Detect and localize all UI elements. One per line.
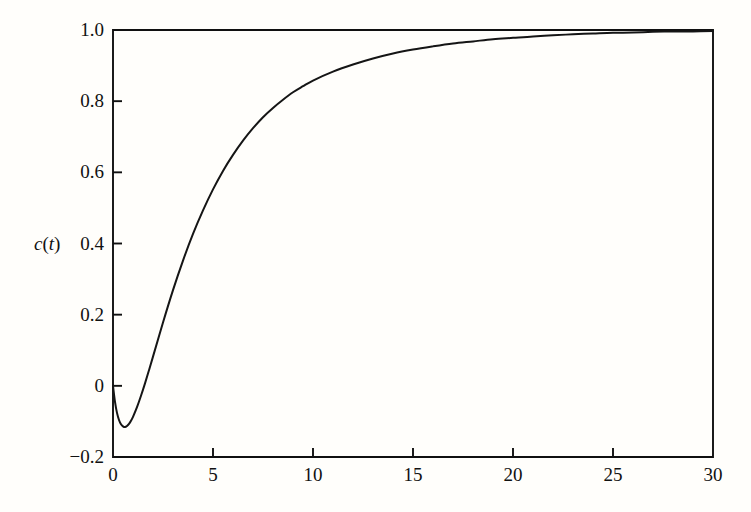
x-tick-label: 25 <box>588 465 638 484</box>
y-tick-label: 0.6 <box>80 162 104 181</box>
y-tick-label: 0.4 <box>80 234 104 253</box>
data-curve <box>113 31 713 427</box>
y-tick-label: −0.2 <box>70 447 104 466</box>
figure-container: c(t) −0.200.20.40.60.81.0 051015202530 <box>0 0 751 512</box>
x-tick-label: 20 <box>488 465 538 484</box>
y-axis-label: c(t) <box>34 234 60 253</box>
x-tick-label: 10 <box>288 465 338 484</box>
y-tick-label: 0.8 <box>80 91 104 110</box>
x-tick-label: 5 <box>188 465 238 484</box>
y-tick-label: 0 <box>95 376 105 395</box>
y-tick-label: 0.2 <box>80 305 104 324</box>
series-line <box>113 31 713 427</box>
y-axis-label-close-paren: ) <box>54 233 60 254</box>
y-tick-label: 1.0 <box>80 20 104 39</box>
axes-frame <box>113 30 713 457</box>
x-tick-label: 0 <box>88 465 138 484</box>
x-tick-label: 30 <box>688 465 738 484</box>
plot-frame <box>113 30 713 457</box>
axis-ticks <box>113 101 613 457</box>
x-tick-label: 15 <box>388 465 438 484</box>
line-chart <box>0 0 751 512</box>
